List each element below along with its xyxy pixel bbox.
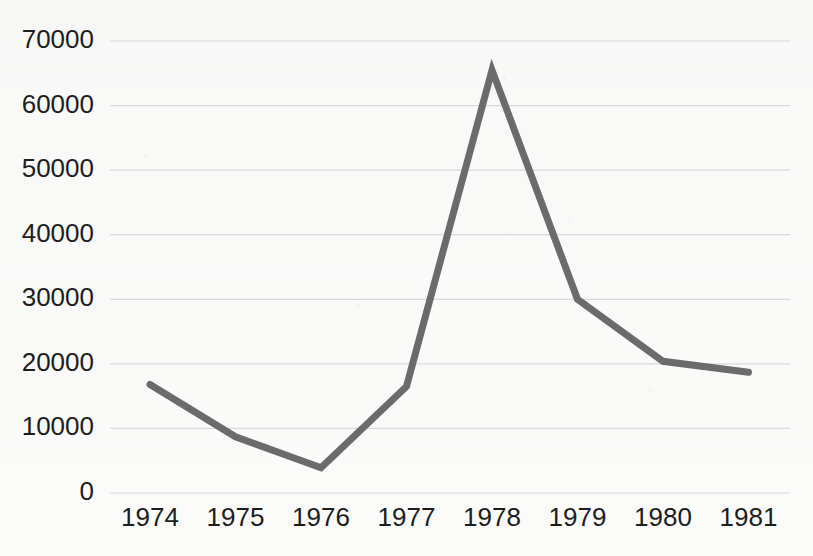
- y-tick-label-0: 0: [80, 476, 94, 507]
- y-tick-label-30000: 30000: [22, 282, 94, 313]
- data-series-group: [150, 70, 749, 468]
- line-chart: 010000200003000040000500006000070000 197…: [0, 0, 813, 556]
- y-tick-label-60000: 60000: [22, 89, 94, 120]
- data-line-series-1: [150, 70, 749, 468]
- y-tick-label-40000: 40000: [22, 218, 94, 249]
- x-tick-label-1981: 1981: [699, 502, 799, 533]
- y-tick-label-10000: 10000: [22, 411, 94, 442]
- y-tick-label-20000: 20000: [22, 347, 94, 378]
- plot-area: [0, 0, 813, 556]
- y-tick-label-70000: 70000: [22, 24, 94, 55]
- y-tick-label-50000: 50000: [22, 153, 94, 184]
